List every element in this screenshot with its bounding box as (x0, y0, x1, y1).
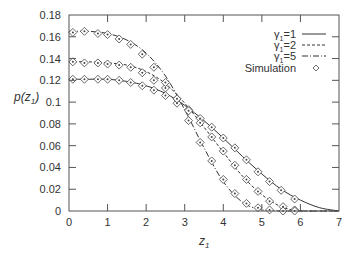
simulation-marker-dot (176, 98, 178, 100)
simulation-marker-dot (107, 78, 109, 80)
simulation-marker-dot (280, 189, 282, 191)
y-tick-label: 0.02 (40, 183, 61, 195)
simulation-marker-dot (97, 78, 99, 80)
simulation-marker-dot (83, 62, 85, 64)
simulation-marker-dot (130, 43, 132, 45)
simulation-marker-dot (245, 178, 247, 180)
simulation-marker-dot (118, 64, 120, 66)
legend-marker-icon (313, 65, 319, 71)
simulation-marker-dot (107, 34, 109, 36)
simulation-marker-dot (199, 122, 201, 124)
simulation-marker-dot (97, 62, 99, 64)
simulation-marker-dot (188, 110, 190, 112)
simulation-marker-dot (234, 164, 236, 166)
simulation-marker-dot (153, 66, 155, 68)
y-tick-label: 0.16 (40, 31, 61, 43)
simulation-marker-dot (130, 82, 132, 84)
simulation-marker-dot (222, 137, 224, 139)
y-tick-label: 0.08 (40, 118, 61, 130)
simulation-marker-dot (211, 136, 213, 138)
simulation-marker-dot (72, 31, 74, 33)
x-tick-label: 6 (297, 216, 303, 228)
simulation-marker-dot (141, 72, 143, 74)
simulation-marker-dot (164, 95, 166, 97)
plot-curves (69, 31, 339, 211)
y-tick-label: 0.14 (40, 53, 61, 65)
simulation-marker-dot (257, 171, 259, 173)
series-line (69, 79, 339, 211)
y-tick-label: 0.12 (40, 74, 61, 86)
simulation-marker-dot (294, 198, 296, 200)
line-chart: 01234567 00.020.040.060.080.10.120.140.1… (0, 0, 351, 259)
simulation-marker-dot (97, 33, 99, 35)
simulation-marker-dot (211, 160, 213, 162)
x-tick-label: 4 (220, 216, 226, 228)
simulation-marker-dot (234, 193, 236, 195)
y-tick-label: 0.1 (46, 96, 61, 108)
simulation-marker-dot (118, 79, 120, 81)
x-tick-label: 7 (336, 216, 342, 228)
simulation-marker-dot (257, 207, 259, 209)
series-line (69, 62, 339, 211)
simulation-marker-dot (222, 178, 224, 180)
y-tick-label: 0.18 (40, 9, 61, 21)
y-tick-label: 0.06 (40, 140, 61, 152)
simulation-marker-dot (107, 63, 109, 65)
simulation-marker-dot (188, 120, 190, 122)
simulation-marker-dot (269, 200, 271, 202)
simulation-marker-dot (164, 82, 166, 84)
x-axis-label: z1 (198, 234, 209, 250)
legend-label: Simulation (245, 62, 296, 74)
simulation-marker-dot (164, 87, 166, 89)
x-tick-label: 3 (182, 216, 188, 228)
simulation-marker-dot (245, 202, 247, 204)
simulation-marker-dot (222, 150, 224, 152)
simulation-marker-dot (234, 147, 236, 149)
simulation-marker-dot (130, 66, 132, 68)
simulation-marker-dot (72, 61, 74, 63)
simulation-marker-dot (257, 190, 259, 192)
simulation-marker-dot (141, 53, 143, 55)
simulation-markers (69, 27, 299, 215)
simulation-marker-dot (118, 38, 120, 40)
simulation-marker-dot (141, 85, 143, 87)
y-tick-label: 0.04 (40, 161, 61, 173)
simulation-marker-dot (211, 126, 213, 128)
simulation-marker-dot (245, 159, 247, 161)
x-tick-label: 0 (66, 216, 72, 228)
legend: γ1=1γ1=2γ1=5Simulation (245, 28, 326, 74)
x-tick-label: 2 (143, 216, 149, 228)
simulation-marker-dot (83, 30, 85, 32)
simulation-marker-dot (199, 141, 201, 143)
y-tick-label: 0 (55, 205, 61, 217)
simulation-marker-dot (153, 89, 155, 91)
y-axis-label: p(z1) (13, 90, 39, 106)
x-tick-label: 1 (105, 216, 111, 228)
x-axis-ticks: 01234567 (66, 15, 342, 228)
simulation-marker-dot (153, 79, 155, 81)
simulation-marker-dot (83, 78, 85, 80)
x-tick-label: 5 (259, 216, 265, 228)
simulation-marker-dot (269, 181, 271, 183)
plot-frame (69, 15, 339, 211)
